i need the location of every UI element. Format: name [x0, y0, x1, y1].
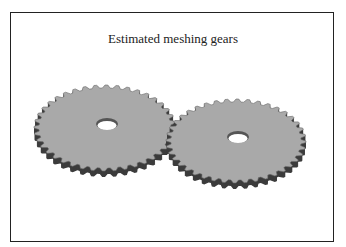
right-gear: [166, 99, 306, 189]
gears-illustration: [0, 0, 346, 247]
left-gear: [34, 85, 176, 177]
